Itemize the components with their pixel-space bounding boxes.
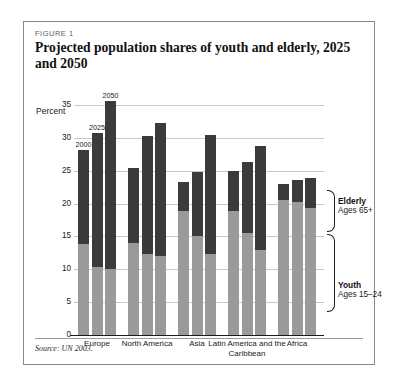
figure-panel: FIGURE 1 Projected population shares of … (23, 21, 375, 365)
bar-2050 (255, 146, 266, 335)
legend-sublabel-youth: Ages 15–24 (338, 290, 382, 299)
legend-brace-elderly (327, 190, 335, 232)
bar-segment-youth (155, 256, 166, 336)
y-axis-tick-5: 5 (56, 297, 71, 306)
source-note: Source: UN 2003. (35, 344, 93, 353)
bar-2000 (278, 184, 289, 335)
bar-segment-youth (205, 254, 216, 335)
bar-segment-elderly (105, 101, 116, 269)
legend-label-youth: Youth (338, 280, 382, 290)
bar-2025 (292, 180, 303, 335)
bar-segment-elderly (78, 150, 89, 245)
bar-segment-youth (92, 267, 103, 335)
y-axis-tick-35: 35 (56, 100, 71, 109)
bar-segment-elderly (255, 146, 266, 250)
bar-group-north-america (128, 105, 166, 335)
gridline-0 (70, 335, 324, 336)
bar-2050 (205, 135, 216, 335)
y-axis-tick-10: 10 (56, 264, 71, 273)
bar-group-africa (278, 105, 316, 335)
bar-segment-youth (242, 233, 253, 335)
bar-segment-elderly (292, 180, 303, 202)
bar-segment-elderly (92, 133, 103, 267)
y-axis-tick-25: 25 (56, 166, 71, 175)
year-annotation-2000: 2000 (76, 140, 92, 149)
bar-2025 (142, 136, 153, 335)
bar-segment-elderly (205, 135, 216, 254)
bar-segment-elderly (192, 172, 203, 236)
bar-2050 (305, 178, 316, 335)
bar-segment-youth (255, 250, 266, 335)
bar-group-europe: 200020252050 (78, 105, 116, 335)
year-annotation-2025: 2025 (89, 123, 105, 132)
bar-group-latin-america-and-the-caribbean (228, 105, 266, 335)
bar-2000: 2000 (78, 150, 89, 335)
figure-number-label: FIGURE 1 (35, 29, 74, 38)
year-annotation-2050: 2050 (103, 91, 119, 100)
legend-item-elderly: Elderly Ages 65+ (338, 196, 373, 215)
bar-2050: 2050 (105, 101, 116, 335)
bar-2025 (242, 162, 253, 335)
bar-segment-elderly (305, 178, 316, 208)
bar-segment-youth (292, 202, 303, 335)
bar-segment-elderly (278, 184, 289, 200)
chart-plot-area: 05101520253035 200020252050 (56, 105, 324, 335)
bar-segment-youth (142, 254, 153, 335)
bar-segment-elderly (178, 182, 189, 212)
bar-2025: 2025 (92, 133, 103, 335)
source-divider (35, 338, 363, 339)
bar-2000 (228, 171, 239, 335)
bar-2025 (192, 172, 203, 335)
bar-2050 (155, 123, 166, 335)
y-axis-tick-20: 20 (56, 199, 71, 208)
legend-item-youth: Youth Ages 15–24 (338, 280, 382, 299)
legend-sublabel-elderly: Ages 65+ (338, 206, 373, 215)
bar-2000 (178, 182, 189, 335)
bar-segment-youth (128, 243, 139, 335)
bar-2000 (128, 168, 139, 335)
bar-segment-elderly (228, 171, 239, 211)
legend-brace-youth (327, 234, 335, 312)
bar-segment-youth (305, 208, 316, 335)
bar-segment-elderly (242, 162, 253, 233)
y-axis-tick-15: 15 (56, 231, 71, 240)
legend-label-elderly: Elderly (338, 196, 373, 206)
bar-segment-youth (278, 200, 289, 335)
y-axis-tick-30: 30 (56, 133, 71, 142)
bar-group-asia (178, 105, 216, 335)
x-axis-label-africa: Africa (254, 339, 340, 349)
bar-segment-elderly (142, 136, 153, 254)
bar-segment-youth (192, 236, 203, 335)
bar-segment-youth (178, 211, 189, 335)
bar-segment-youth (228, 211, 239, 335)
bar-segment-elderly (155, 123, 166, 255)
bar-segment-elderly (128, 168, 139, 243)
bar-groups: 200020252050 (74, 105, 324, 335)
figure-title: Projected population shares of youth and… (35, 40, 355, 71)
bar-segment-youth (78, 244, 89, 335)
bar-segment-youth (105, 269, 116, 335)
